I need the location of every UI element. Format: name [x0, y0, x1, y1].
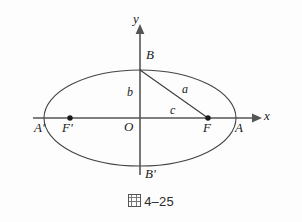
figure-cjk-glyph-icon — [128, 194, 141, 207]
figure-container: x y O A' A F' F B B' a b c 4–25 — [0, 0, 302, 222]
segment-b-label: b — [127, 86, 133, 98]
covertex-bottom-label: B' — [145, 167, 156, 180]
vertex-left-label: A' — [34, 121, 45, 134]
x-axis-arrowhead — [252, 114, 262, 123]
covertex-top-label: B — [146, 48, 154, 61]
origin-label: O — [124, 120, 133, 133]
y-axis-label: y — [133, 12, 139, 25]
vertex-right-label: A — [235, 121, 243, 134]
ellipse-diagram — [0, 0, 302, 222]
focus-left-label: F' — [62, 121, 73, 134]
focus-right-label: F — [203, 121, 211, 134]
segment-c-label: c — [170, 104, 175, 116]
segment-a-label: a — [182, 83, 188, 95]
figure-caption: 4–25 — [0, 194, 302, 208]
figure-caption-number: 4–25 — [144, 194, 174, 209]
x-axis-label: x — [264, 109, 270, 122]
